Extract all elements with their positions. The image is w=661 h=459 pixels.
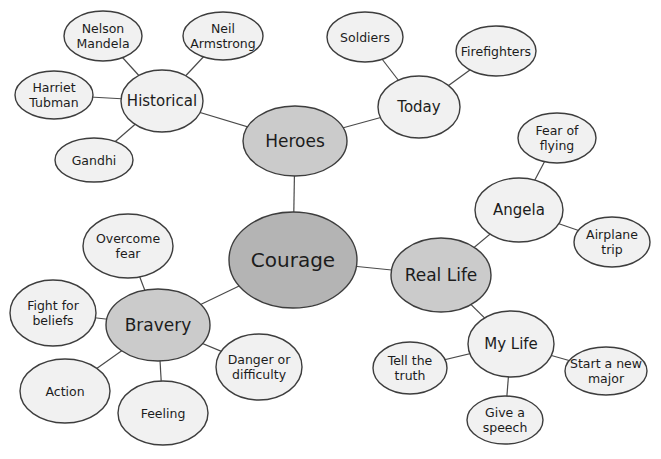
node-mylife: My Life bbox=[468, 311, 554, 377]
node-courage: Courage bbox=[229, 212, 357, 308]
node-reallife: Real Life bbox=[391, 238, 491, 312]
node-ellipse-fearflying bbox=[518, 113, 596, 163]
node-fearflying: Fear offlying bbox=[518, 113, 596, 163]
mindmap-page: CourageHeroesBraveryReal LifeHistoricalT… bbox=[0, 0, 661, 459]
node-ellipse-soldiers bbox=[327, 12, 403, 62]
node-ellipse-tellthetruth bbox=[373, 342, 447, 394]
node-harriet: HarrietTubman bbox=[15, 71, 93, 119]
node-historical: Historical bbox=[121, 70, 203, 132]
node-ellipse-bravery bbox=[106, 289, 210, 361]
node-ellipse-fightbeliefs bbox=[10, 280, 96, 346]
node-ellipse-historical bbox=[121, 70, 203, 132]
node-ellipse-action bbox=[20, 359, 110, 423]
node-ellipse-airplane bbox=[574, 217, 650, 267]
node-ellipse-angela bbox=[475, 178, 563, 242]
node-fightbeliefs: Fight forbeliefs bbox=[10, 280, 96, 346]
node-ellipse-nelson bbox=[64, 11, 142, 61]
node-airplane: Airplanetrip bbox=[574, 217, 650, 267]
node-today: Today bbox=[378, 76, 460, 138]
node-feeling: Feeling bbox=[118, 381, 208, 445]
node-ellipse-overcome bbox=[83, 214, 173, 278]
node-heroes: Heroes bbox=[243, 106, 347, 176]
node-ellipse-startmajor bbox=[565, 347, 647, 395]
node-ellipse-today bbox=[378, 76, 460, 138]
node-ellipse-givespeech bbox=[467, 396, 543, 444]
node-ellipse-danger bbox=[216, 334, 302, 400]
node-soldiers: Soldiers bbox=[327, 12, 403, 62]
node-ellipse-courage bbox=[229, 212, 357, 308]
node-bravery: Bravery bbox=[106, 289, 210, 361]
node-ellipse-feeling bbox=[118, 381, 208, 445]
node-ellipse-firefighters bbox=[456, 26, 536, 76]
node-givespeech: Give aspeech bbox=[467, 396, 543, 444]
node-neil: NeilArmstrong bbox=[183, 12, 263, 60]
node-tellthetruth: Tell thetruth bbox=[373, 342, 447, 394]
node-danger: Danger ordifficulty bbox=[216, 334, 302, 400]
node-ellipse-gandhi bbox=[55, 138, 133, 182]
node-ellipse-harriet bbox=[15, 71, 93, 119]
node-overcome: Overcomefear bbox=[83, 214, 173, 278]
node-ellipse-neil bbox=[183, 12, 263, 60]
node-ellipse-reallife bbox=[391, 238, 491, 312]
node-angela: Angela bbox=[475, 178, 563, 242]
node-ellipse-mylife bbox=[468, 311, 554, 377]
node-nelson: NelsonMandela bbox=[64, 11, 142, 61]
node-startmajor: Start a newmajor bbox=[565, 347, 647, 395]
mindmap-canvas: CourageHeroesBraveryReal LifeHistoricalT… bbox=[0, 0, 661, 459]
node-action: Action bbox=[20, 359, 110, 423]
node-gandhi: Gandhi bbox=[55, 138, 133, 182]
node-ellipse-heroes bbox=[243, 106, 347, 176]
node-firefighters: Firefighters bbox=[456, 26, 536, 76]
